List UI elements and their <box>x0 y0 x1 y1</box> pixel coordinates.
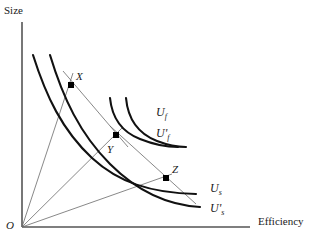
indifference-curves-group <box>33 55 200 207</box>
figure-canvas: Size Efficiency O X Y Z Uf U'f Us U's <box>0 0 322 242</box>
curve-label-Us-prime-group: U's <box>210 201 224 217</box>
y-axis-label: Size <box>4 4 23 16</box>
point-label-Z: Z <box>172 163 178 175</box>
curve-label-Uf-prime-group: U'f <box>156 126 169 142</box>
point-Y-marker <box>113 132 119 138</box>
tangent-lines-group <box>63 71 196 204</box>
tangent-line-Y-Z <box>110 126 196 204</box>
curve-label-Us-sub: s <box>219 188 222 197</box>
point-label-Y: Y <box>107 143 113 155</box>
curve-label-Ufp-base: U <box>156 126 165 140</box>
ray-to-Z <box>22 174 172 227</box>
curve-label-Usp-base: U <box>210 201 219 215</box>
curve-label-Uf-sub: f <box>165 112 167 121</box>
point-X-marker <box>68 82 74 88</box>
origin-label: O <box>6 219 14 231</box>
point-Z-marker <box>163 175 169 181</box>
x-axis-label: Efficiency <box>258 215 304 227</box>
curve-label-Usp-sub: s <box>221 208 224 217</box>
curve-label-Uf: Uf <box>156 105 167 121</box>
curve-label-Uf-base: U <box>156 105 165 119</box>
curve-label-Us: Us <box>210 181 222 197</box>
point-label-X: X <box>76 70 83 82</box>
curve-label-Us-base: U <box>210 181 219 195</box>
curve-label-Ufp-sub: f <box>167 133 169 142</box>
